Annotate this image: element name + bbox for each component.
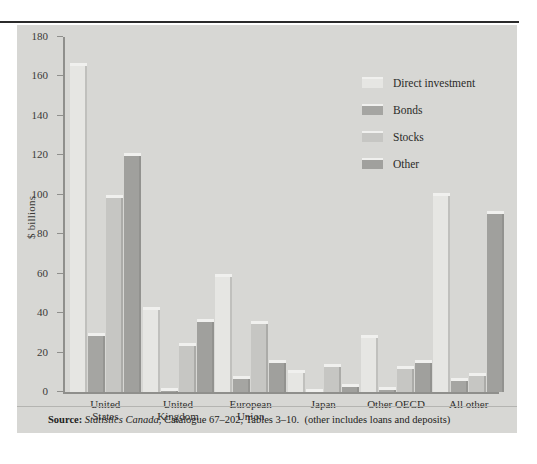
source-divider [17,406,517,407]
legend-label: Bonds [393,104,422,116]
legend-swatch-cap [362,131,383,133]
source-note: Source: Statistics Canada, Catalogue 67–… [48,414,450,425]
bar-top-cap [215,274,232,277]
y-axis-tick: 180 [57,36,63,37]
bar[interactable] [361,335,378,392]
legend-swatch-cap [362,158,383,160]
y-axis-tick-label: 0 [43,386,49,397]
bar-shadow-edge [412,368,414,392]
legend-item[interactable]: Direct investment [362,72,475,93]
bar-top-cap [306,389,323,392]
bar-top-cap [197,319,214,322]
legend-swatch [362,131,383,142]
top-rule-divider [0,21,519,23]
legend-swatch [362,77,383,88]
bar-top-cap [70,63,87,66]
bar[interactable] [469,373,486,392]
bar-top-cap [342,384,359,387]
bar-shadow-edge [284,362,286,392]
bar[interactable] [415,360,432,392]
bar-group [288,37,359,392]
legend-label: Direct investment [393,77,475,89]
y-axis-tick: 60 [57,273,63,274]
bar-top-cap [179,343,196,346]
bar-top-cap [469,373,486,376]
bar[interactable] [88,333,105,392]
y-axis-tick-label: 40 [37,307,48,318]
bar-group [143,37,214,392]
bar-top-cap [143,307,160,310]
legend-swatch [362,158,383,169]
bar[interactable] [124,153,141,392]
bar[interactable] [433,193,450,392]
bar[interactable] [233,376,250,392]
bar-top-cap [451,378,468,381]
bar-top-cap [324,364,341,367]
bar-shadow-edge [376,337,378,392]
y-axis-tick: 80 [57,233,63,234]
bar[interactable] [487,211,504,392]
chart-legend: Direct investmentBondsStocksOther [362,72,475,180]
legend-item[interactable]: Other [362,153,475,174]
bar[interactable] [179,343,196,392]
bar-shadow-edge [430,362,432,392]
figure-container: $ billions 020406080100120140160180 Unit… [0,0,537,464]
bar-top-cap [288,370,305,373]
bar[interactable] [106,195,123,392]
y-axis-tick: 100 [57,194,63,195]
y-axis-tick: 20 [57,352,63,353]
bar-top-cap [361,335,378,338]
legend-label: Other [393,158,419,170]
bar-top-cap [397,366,414,369]
source-rest: , Catalogue 67–202, Tables 3–10. [159,414,300,425]
bar[interactable] [269,360,286,392]
bar[interactable] [306,389,323,392]
bar-shadow-edge [85,65,87,392]
source-publication: Statistics Canada [85,414,159,425]
bar[interactable] [161,388,178,392]
y-axis-tick-label: 80 [37,228,48,239]
bar[interactable] [397,366,414,392]
source-label: Source: [48,414,82,425]
bar-shadow-edge [230,276,232,392]
bar[interactable] [215,274,232,392]
y-axis-tick-label: 60 [37,267,48,278]
bar-top-cap [415,360,432,363]
legend-item[interactable]: Bonds [362,99,475,120]
bar-shadow-edge [248,378,250,392]
y-axis-tick-label: 20 [37,346,48,357]
bar[interactable] [143,307,160,392]
bar-shadow-edge [266,323,268,392]
bar-top-cap [233,376,250,379]
bar-shadow-edge [502,213,504,392]
bar-top-cap [487,211,504,214]
bar[interactable] [379,387,396,392]
bar-top-cap [106,195,123,198]
bar[interactable] [251,321,268,392]
bar[interactable] [70,63,87,392]
legend-item[interactable]: Stocks [362,126,475,147]
y-axis-tick-label: 160 [32,70,49,81]
bar-shadow-edge [103,335,105,392]
bar[interactable] [451,378,468,392]
bar[interactable] [342,384,359,392]
category-label-line: All other [413,398,524,410]
bar[interactable] [197,319,214,392]
y-axis-tick: 120 [57,154,63,155]
bar[interactable] [324,364,341,392]
bar-top-cap [88,333,105,336]
bar-shadow-edge [466,380,468,392]
y-axis-tick: 40 [57,312,63,313]
y-axis-tick: 0 [57,391,63,392]
y-axis-tick-label: 140 [32,109,49,120]
y-axis-tick-label: 120 [32,149,49,160]
bar-shadow-edge [339,366,341,392]
source-note-parenthetical: (other includes loans and deposits) [304,414,450,425]
legend-swatch [362,104,383,115]
bar-top-cap [433,193,450,196]
bar[interactable] [288,370,305,392]
bar-shadow-edge [194,345,196,392]
bar-top-cap [251,321,268,324]
bar-shadow-edge [448,195,450,392]
legend-label: Stocks [393,131,424,143]
